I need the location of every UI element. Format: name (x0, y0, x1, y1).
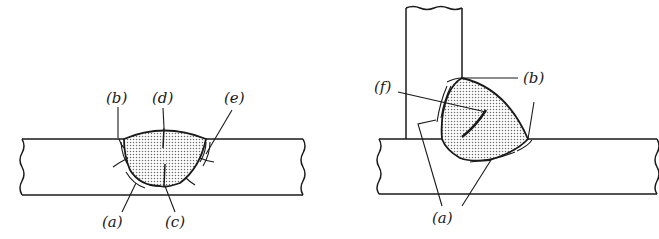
plate-break-left (20, 139, 24, 195)
crack-d (163, 128, 164, 148)
label-a-right: (a) (432, 209, 453, 227)
hair-crack-left-1 (113, 158, 128, 167)
hair-crack-left-2 (186, 178, 195, 185)
label-b-left: (b) (106, 89, 127, 107)
leader-a-left (122, 183, 136, 212)
vertical-plate-break (406, 7, 462, 10)
leader-a-upper (418, 120, 442, 206)
label-a-left: (a) (102, 213, 123, 231)
base-plate-break-left (377, 139, 381, 194)
label-e-left: (e) (224, 89, 245, 107)
base-plate-break-right (655, 139, 659, 194)
leader-b-toe (528, 102, 534, 139)
label-f: (f) (374, 78, 391, 96)
label-b-top: (b) (523, 69, 544, 87)
plate-break-right (301, 139, 305, 195)
fillet-weld-bead (442, 78, 528, 161)
leader-a-lower (462, 160, 491, 206)
fillet-weld-diagram: (b) (f) (a) (374, 7, 659, 228)
leader-d-left (163, 108, 164, 128)
crack-c (164, 164, 165, 186)
leader-c-left (165, 186, 175, 212)
label-c-left: (c) (165, 213, 185, 231)
weld-defects-figure: (b) (d) (e) (a) (c) (b) ( (0, 0, 659, 239)
leader-e-left (206, 110, 232, 154)
label-d-left: (d) (152, 89, 173, 107)
butt-weld-diagram: (b) (d) (e) (a) (c) (20, 89, 305, 231)
